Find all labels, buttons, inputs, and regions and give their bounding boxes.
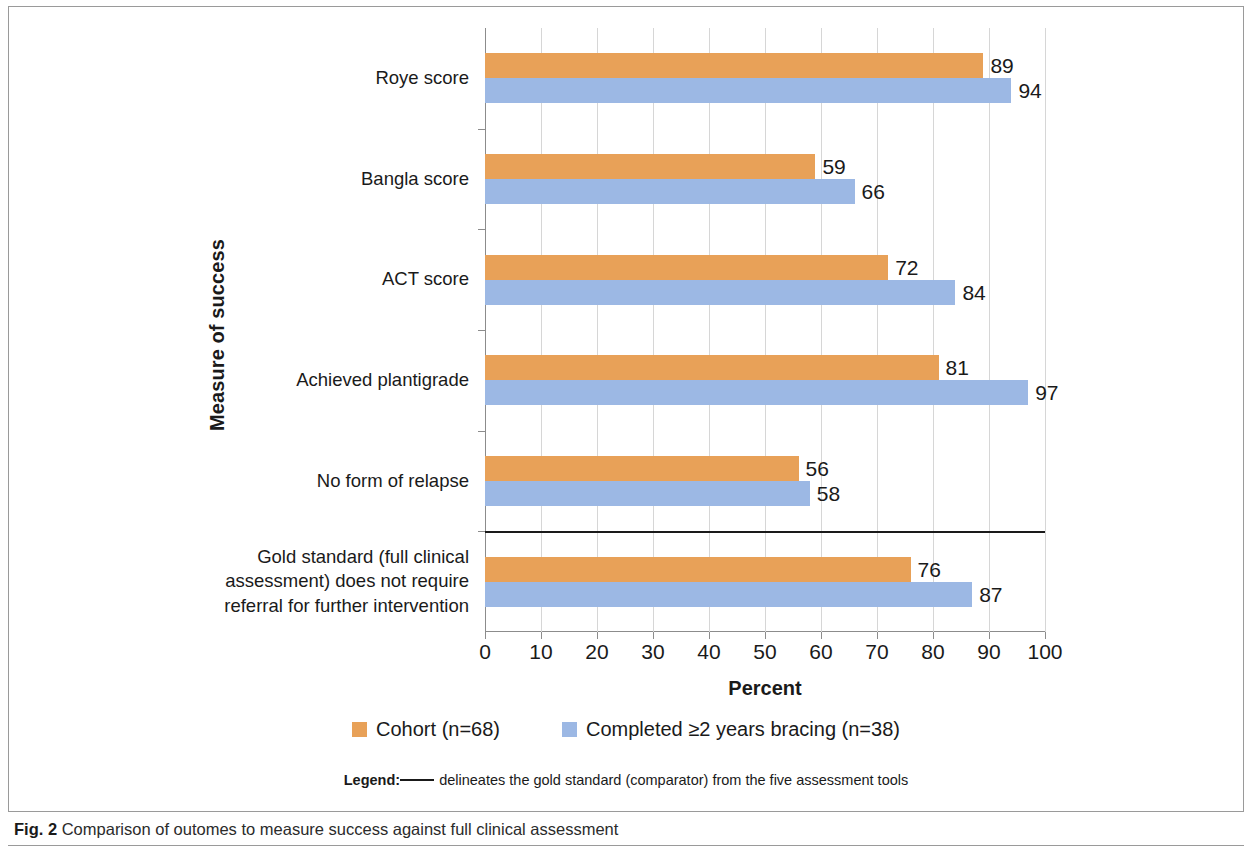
category-label: Gold standard (full clinical assessment)…: [39, 545, 469, 618]
legend-entry: Cohort (n=68): [352, 718, 500, 741]
bar-value-label: 66: [855, 179, 885, 204]
y-tickmark: [478, 129, 485, 130]
bar-0: [485, 355, 939, 380]
x-tickmark: [765, 632, 766, 639]
figure-border-bottom: [8, 845, 1244, 846]
bar-value-label: 59: [815, 154, 845, 179]
legend-note-rule-icon: [400, 779, 434, 781]
y-tickmark: [478, 330, 485, 331]
category-row: Bangla score5966: [485, 129, 1045, 230]
legend-label: Completed ≥2 years bracing (n=38): [586, 718, 900, 741]
bar-1: [485, 179, 855, 204]
bar-value-label: 81: [939, 355, 969, 380]
bar-value-label: 94: [1011, 78, 1041, 103]
category-row: Gold standard (full clinical assessment)…: [485, 531, 1045, 632]
x-tickmark: [1045, 632, 1046, 639]
category-label: ACT score: [39, 267, 469, 291]
x-tickmark: [653, 632, 654, 639]
legend-label: Cohort (n=68): [376, 718, 500, 741]
category-label: Roye score: [39, 66, 469, 90]
category-row: ACT score7284: [485, 229, 1045, 330]
x-tickmark: [597, 632, 598, 639]
x-tickmark: [485, 632, 486, 639]
x-tick-label: 100: [1010, 640, 1080, 664]
x-tickmark: [933, 632, 934, 639]
legend-entry: Completed ≥2 years bracing (n=38): [562, 718, 900, 741]
plot-area: Roye score8994Bangla score5966ACT score7…: [485, 28, 1045, 632]
caption-text: Comparison of outomes to measure success…: [62, 820, 619, 838]
category-label: Achieved plantigrade: [39, 368, 469, 392]
caption-label: Fig. 2: [14, 820, 57, 838]
bar-0: [485, 255, 888, 280]
bar-1: [485, 78, 1011, 103]
y-tickmark: [478, 229, 485, 230]
legend-note: Legend:delineates the gold standard (com…: [0, 772, 1252, 788]
bar-value-label: 58: [810, 481, 840, 506]
bar-0: [485, 53, 983, 78]
category-row: No form of relapse5658: [485, 431, 1045, 532]
gridline: [1045, 28, 1046, 632]
gold-standard-divider: [485, 531, 1045, 533]
bar-1: [485, 582, 972, 607]
category-label: No form of relapse: [39, 469, 469, 493]
x-tickmark: [709, 632, 710, 639]
category-label: Bangla score: [39, 167, 469, 191]
bar-0: [485, 557, 911, 582]
bar-value-label: 76: [911, 557, 941, 582]
category-row: Roye score8994: [485, 28, 1045, 129]
bar-value-label: 84: [955, 280, 985, 305]
bar-0: [485, 456, 799, 481]
x-tickmark: [989, 632, 990, 639]
legend-swatch-icon: [352, 722, 367, 737]
x-tickmark: [821, 632, 822, 639]
chart-legend: Cohort (n=68)Completed ≥2 years bracing …: [0, 718, 1252, 741]
bar-1: [485, 481, 810, 506]
chart-canvas: Measure of success Roye score8994Bangla …: [0, 0, 1252, 700]
bar-value-label: 87: [972, 582, 1002, 607]
y-tickmark: [478, 531, 485, 532]
x-axis-title: Percent: [485, 677, 1045, 700]
x-tickmark: [541, 632, 542, 639]
bar-1: [485, 280, 955, 305]
bar-0: [485, 154, 815, 179]
legend-swatch-icon: [562, 722, 577, 737]
x-tickmark: [877, 632, 878, 639]
bar-value-label: 97: [1028, 380, 1058, 405]
legend-note-label: Legend:: [344, 772, 400, 788]
y-tickmark: [478, 431, 485, 432]
category-row: Achieved plantigrade8197: [485, 330, 1045, 431]
figure-caption: Fig. 2 Comparison of outomes to measure …: [14, 820, 1234, 839]
bar-value-label: 56: [799, 456, 829, 481]
bar-value-label: 89: [983, 53, 1013, 78]
bar-1: [485, 380, 1028, 405]
bar-value-label: 72: [888, 255, 918, 280]
figure-2-container: Measure of success Roye score8994Bangla …: [0, 0, 1252, 859]
y-axis-title: Measure of success: [206, 155, 240, 515]
legend-note-text: delineates the gold standard (comparator…: [439, 772, 908, 788]
